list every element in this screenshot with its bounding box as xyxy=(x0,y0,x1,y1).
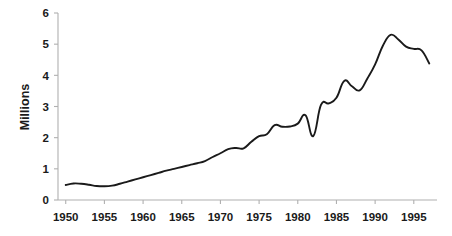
data-series-line xyxy=(66,35,430,187)
x-axis-tick-label: 1980 xyxy=(285,211,311,223)
x-axis-tick-label: 1975 xyxy=(246,211,272,223)
y-axis-tick-label: 1 xyxy=(43,163,50,175)
y-axis-tick-label: 3 xyxy=(43,101,49,113)
y-axis-tick-label: 2 xyxy=(43,132,49,144)
y-axis-group: 0123456 xyxy=(43,7,58,206)
y-axis-tick-labels: 0123456 xyxy=(43,7,50,206)
x-axis-tick-labels: 1950195519601965197019751980198519901995 xyxy=(53,211,427,223)
x-axis-tick-label: 1995 xyxy=(401,211,427,223)
x-axis-tick-label: 1965 xyxy=(169,211,195,223)
x-axis-group: 1950195519601965197019751980198519901995 xyxy=(53,200,437,223)
y-axis-tick-label: 5 xyxy=(43,38,50,50)
x-axis-tick-label: 1985 xyxy=(324,211,350,223)
y-axis-tick-label: 0 xyxy=(43,194,49,206)
x-axis-tick-label: 1950 xyxy=(53,211,79,223)
line-chart: 0123456 19501955196019651970197519801985… xyxy=(0,0,452,236)
y-axis-title: Millions xyxy=(18,84,32,131)
x-axis-tick-label: 1990 xyxy=(362,211,388,223)
y-axis-ticks xyxy=(54,13,58,200)
x-axis-tick-label: 1955 xyxy=(92,211,118,223)
x-axis-tick-label: 1960 xyxy=(130,211,156,223)
y-axis-tick-label: 6 xyxy=(43,7,49,19)
y-axis-tick-label: 4 xyxy=(43,70,50,82)
x-axis-ticks xyxy=(66,200,414,204)
chart-canvas: 0123456 19501955196019651970197519801985… xyxy=(0,0,452,236)
x-axis-tick-label: 1970 xyxy=(208,211,234,223)
